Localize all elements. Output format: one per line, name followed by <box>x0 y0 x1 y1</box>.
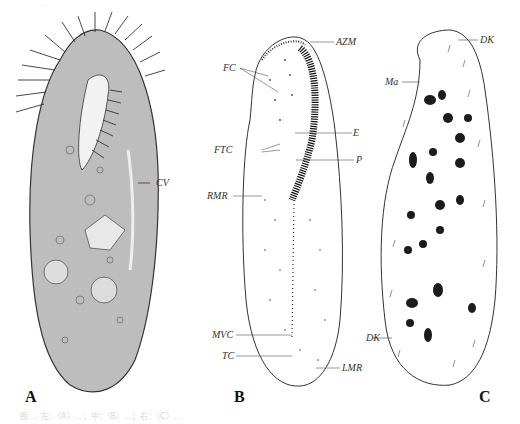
label-lmr: LMR <box>342 362 362 373</box>
label-fc: FC <box>223 62 236 73</box>
label-cv: CV <box>156 177 169 188</box>
panel-letter-b: B <box>234 388 245 406</box>
label-ma: Ma <box>385 76 398 87</box>
panel-a-drawing <box>16 12 165 392</box>
label-rmr: RMR <box>207 190 228 201</box>
label-mvc: MVC <box>212 329 233 340</box>
label-tc: TC <box>222 350 234 361</box>
label-azm: AZM <box>336 36 356 47</box>
panel-b-drawing <box>233 37 354 386</box>
label-dk-bottom: DK <box>366 332 380 343</box>
panel-letter-a: A <box>25 388 37 406</box>
label-ftc: FTC <box>214 144 232 155</box>
figure: … <box>0 0 520 424</box>
figure-drawing <box>0 0 520 424</box>
figure-caption: 图 … 左：（A）…；中：（B）…；右：（C）… <box>20 410 510 421</box>
label-dk-top: DK <box>480 34 494 45</box>
label-p: P <box>356 154 362 165</box>
label-e: E <box>353 127 359 138</box>
panel-letter-c: C <box>479 388 491 406</box>
